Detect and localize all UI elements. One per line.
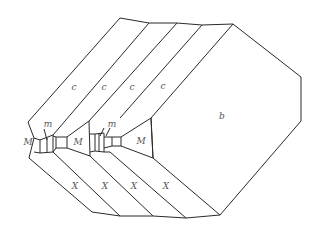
m2-pointer-a xyxy=(100,128,104,136)
face-label-c-1: c xyxy=(71,83,76,92)
c-edge-1 xyxy=(28,18,120,122)
m2-link-bot xyxy=(104,146,112,148)
face-label-c-2: c xyxy=(101,83,106,92)
m2-block-a xyxy=(90,134,95,152)
x-edge-3 xyxy=(90,156,153,216)
x-edge-1 xyxy=(29,158,92,212)
face-label-X-1: X xyxy=(72,182,78,191)
x-edge-4 xyxy=(110,152,186,218)
face-label-M-1: M xyxy=(23,138,32,147)
m2-block-c xyxy=(112,137,121,146)
x-edge-2 xyxy=(53,152,120,216)
crystal-diagram: c c c c b M M M m m X X X X xyxy=(0,0,319,235)
face-label-M-2: M xyxy=(73,138,82,147)
face-label-c-4: c xyxy=(160,82,165,91)
c-edge-4 xyxy=(120,25,202,118)
face-label-M-3: M xyxy=(136,137,145,146)
face-label-m-2: m xyxy=(108,120,117,129)
face-label-c-3: c xyxy=(129,83,134,92)
m1-block-c xyxy=(56,137,67,148)
face-label-X-2: X xyxy=(102,182,108,191)
bottom-edge xyxy=(92,212,220,218)
crystal-outline xyxy=(0,0,319,235)
m2-pointer-b xyxy=(106,128,110,136)
face-label-X-3: X xyxy=(131,182,137,191)
face-label-m-1: m xyxy=(44,120,53,129)
face-label-b: b xyxy=(219,112,225,121)
b-face-outline xyxy=(220,24,301,215)
m1-block-a xyxy=(34,138,40,153)
face-label-X-4: X xyxy=(163,182,169,191)
